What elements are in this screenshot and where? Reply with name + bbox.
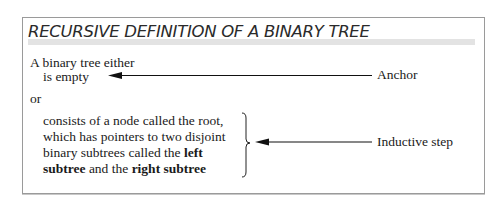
inductive-step-label: Inductive step bbox=[377, 134, 453, 150]
annotation-arrows bbox=[0, 0, 503, 202]
right-brace-icon bbox=[242, 113, 250, 177]
inductive-arrow-icon bbox=[255, 139, 372, 146]
anchor-arrow-icon bbox=[108, 72, 372, 79]
anchor-label: Anchor bbox=[377, 67, 418, 83]
